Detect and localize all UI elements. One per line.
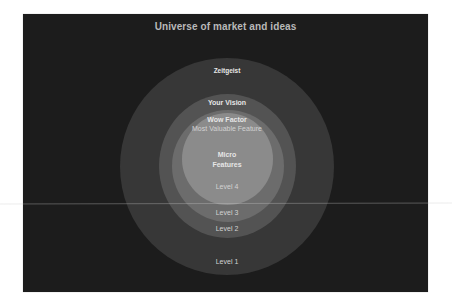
ring-level-2-header: Your Vision: [127, 98, 327, 107]
ring-level-4-label: Level 4: [127, 182, 327, 191]
ring-level-3-label: Level 3: [127, 208, 327, 217]
ring-level-1-header: Zeitgeist: [127, 66, 327, 75]
ring-level-3-header: Wow Factor: [127, 115, 327, 124]
ring-level-3-subheader: Most Valuable Feature: [127, 124, 327, 133]
ring-level-2-label: Level 2: [127, 224, 327, 233]
diagram-title: Universe of market and ideas: [23, 21, 428, 32]
ring-level-1-label: Level 1: [127, 257, 327, 266]
ring-level-4-header-line1: Micro: [127, 150, 327, 159]
ring-level-4-header-line2: Features: [127, 160, 327, 169]
